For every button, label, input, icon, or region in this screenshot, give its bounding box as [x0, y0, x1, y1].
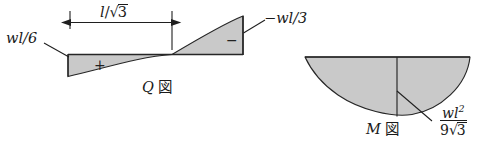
q-right-end-label: −wl/3 [264, 11, 307, 26]
q-positive-sign: + [94, 58, 106, 72]
q-diagram-caption: Q図 [142, 80, 172, 95]
max-moment-fraction: wl2 9√3 [438, 104, 469, 137]
dimension-radical: √3 [110, 4, 128, 20]
max-moment-denominator-coeff: 9 [440, 122, 449, 138]
q-left-end-label: wl/6 [6, 31, 37, 46]
max-moment-denominator: 9√3 [438, 121, 469, 137]
q-caption-symbol: Q [142, 79, 154, 95]
q-dimension-label: l/√3 [100, 4, 128, 20]
q-negative-sign: − [226, 33, 238, 47]
m-caption-cjk: 図 [385, 121, 399, 137]
m-diagram-caption: M図 [366, 122, 399, 137]
max-moment-denominator-radical: √3 [449, 122, 467, 137]
q-negative-sign-text: − [226, 32, 238, 48]
q-positive-region [68, 55, 172, 77]
leader-line-right-shear [244, 20, 266, 33]
max-moment-numerator-base: wl [442, 105, 458, 121]
q-right-end-label-text: −wl/3 [264, 10, 307, 26]
engineering-diagram-canvas [0, 0, 500, 154]
denominator-radicand: 3 [457, 122, 467, 137]
max-moment-numerator: wl2 [440, 104, 467, 121]
figure-root: wl/6 l/√3 −wl/3 + − Q図 M図 wl2 9√3 [0, 0, 500, 154]
q-left-end-label-text: wl/6 [6, 30, 37, 46]
radicand: 3 [118, 4, 128, 20]
leader-line-left-shear [44, 43, 69, 57]
q-positive-sign-text: + [94, 57, 106, 73]
m-caption-symbol: M [366, 121, 381, 137]
q-caption-cjk: 図 [158, 79, 172, 95]
m-max-moment-label: wl2 9√3 [438, 104, 469, 137]
max-moment-numerator-exponent: 2 [459, 103, 465, 114]
